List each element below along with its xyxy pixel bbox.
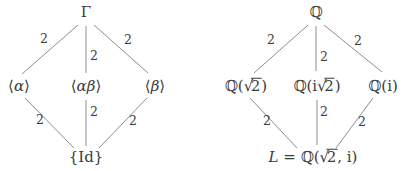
lattice-edges — [0, 0, 403, 171]
node-identity: {Id} — [69, 149, 104, 166]
node-L: L = ℚ(√2, i) — [269, 149, 358, 166]
edge-Qi-L — [336, 98, 373, 148]
edge-label-right-top-center: 2 — [320, 51, 328, 64]
edge-gamma-alpha — [22, 25, 78, 74]
angle-bracket-right: ⟩ — [159, 77, 165, 95]
radicand: 2 — [324, 78, 335, 94]
node-L-equals: = ℚ( — [279, 148, 320, 166]
angle-bracket-right: ⟩ — [95, 77, 101, 95]
edge-label-left-top-left: 2 — [40, 33, 48, 46]
node-Q-sqrt2-suffix: ) — [261, 77, 267, 95]
edge-label-right-bottom-center: 2 — [320, 106, 328, 119]
edge-label-left-top-center: 2 — [90, 50, 98, 63]
hasse-diagrams-figure: Γ ⟨α⟩ ⟨αβ⟩ ⟨β⟩ {Id} 2 2 2 2 2 2 ℚ ℚ(√2) … — [0, 0, 403, 171]
node-Q-isqrt2: ℚ(i√2) — [293, 78, 340, 95]
node-Q-isqrt2-suffix: ) — [335, 77, 341, 95]
node-alphabeta-text: αβ — [77, 77, 96, 95]
edge-label-right-bottom-right: 2 — [358, 116, 366, 129]
edge-Qsqrt2-L — [250, 98, 297, 148]
node-alphabeta: ⟨αβ⟩ — [71, 78, 102, 95]
angle-bracket-right: ⟩ — [24, 77, 30, 95]
node-alpha: ⟨α⟩ — [8, 78, 30, 95]
edge-label-left-bottom-right: 2 — [129, 115, 137, 128]
node-Q-sqrt2-prefix: ℚ( — [225, 77, 244, 95]
node-Q-i: ℚ(i) — [368, 78, 398, 95]
edge-label-left-top-right: 2 — [124, 34, 132, 47]
edge-Q-Qsqrt2 — [254, 25, 308, 73]
edge-label-right-top-left: 2 — [267, 34, 275, 47]
node-beta-text: β — [151, 77, 160, 95]
edge-gamma-beta — [94, 25, 148, 73]
edge-label-right-top-right: 2 — [354, 35, 362, 48]
node-Q-isqrt2-prefix: ℚ(i — [293, 77, 317, 95]
edge-label-left-bottom-center: 2 — [90, 106, 98, 119]
edge-beta-id — [99, 98, 147, 148]
node-L-suffix: , i) — [337, 148, 357, 166]
node-Q: ℚ — [309, 4, 322, 21]
edge-label-left-bottom-left: 2 — [36, 114, 44, 127]
node-gamma: Γ — [81, 4, 91, 21]
edge-label-right-bottom-left: 2 — [263, 115, 271, 128]
node-Q-sqrt2: ℚ(√2) — [225, 78, 267, 95]
edge-Q-Qi — [324, 25, 382, 72]
node-L-variable: L — [269, 148, 279, 166]
node-alpha-text: α — [14, 77, 24, 95]
radicand: 2 — [251, 78, 262, 94]
edge-alpha-id — [25, 98, 74, 148]
radicand: 2 — [327, 149, 338, 165]
node-beta: ⟨β⟩ — [145, 78, 165, 95]
